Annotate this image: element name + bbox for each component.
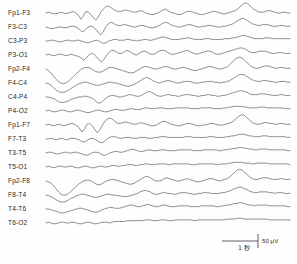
- channel-label-fp2-f4: Fp2-F4: [8, 65, 30, 73]
- channel-label-c3-p3: C3-P3: [8, 37, 28, 44]
- channel-label-f4-c4: F4-C4: [8, 79, 27, 86]
- channel-label-f7-t3: F7-T3: [8, 135, 27, 142]
- channel-label-t4-t6: T4-T6: [8, 205, 27, 212]
- amplitude-scale-label: 50 μV: [262, 237, 279, 244]
- channel-label-fp1-f7: Fp1-F7: [8, 121, 30, 129]
- channel-label-p4-o2: P4-O2: [8, 107, 28, 114]
- channel-label-t6-o2: T6-O2: [8, 219, 28, 226]
- eeg-chart: Fp1-F3F3-C3C3-P3P3-O1Fp2-F4F4-C4C4-P4P4-…: [0, 0, 297, 264]
- channel-label-t3-t5: T3-T5: [8, 149, 27, 156]
- channel-label-fp2-f8: Fp2-F8: [8, 177, 30, 185]
- channel-label-c4-p4: C4-P4: [8, 93, 28, 100]
- clipped-caption: [2, 257, 72, 264]
- channel-label-p3-o1: P3-O1: [8, 51, 28, 58]
- time-scale-label: 1 秒: [238, 244, 250, 252]
- channel-label-fp1-f3: Fp1-F3: [8, 9, 30, 17]
- channel-label-t5-o1: T5-O1: [8, 163, 28, 170]
- chart-background: [0, 0, 297, 264]
- channel-label-f3-c3: F3-C3: [8, 23, 27, 30]
- channel-label-f8-t4: F8-T4: [8, 191, 27, 198]
